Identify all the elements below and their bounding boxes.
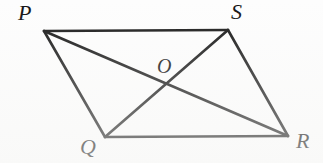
vertex-label-r: R bbox=[296, 130, 309, 152]
vertex-label-q: Q bbox=[80, 136, 96, 158]
geometry-figure-canvas: P S Q R O bbox=[0, 0, 323, 163]
side-SR bbox=[228, 30, 288, 136]
side-PS bbox=[44, 30, 228, 31]
diagonal-QS bbox=[105, 30, 228, 137]
intersection-label-o: O bbox=[157, 56, 171, 76]
vertex-label-s: S bbox=[231, 1, 242, 23]
vertex-label-p: P bbox=[18, 2, 31, 24]
parallelogram-diagram bbox=[0, 0, 323, 163]
side-RQ bbox=[105, 136, 288, 137]
side-QP bbox=[44, 31, 105, 137]
